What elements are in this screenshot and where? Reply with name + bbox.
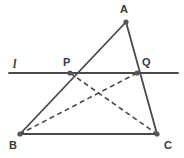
point-c-dot <box>154 131 159 136</box>
point-p-dot <box>67 70 72 75</box>
segment-pc-dashed <box>70 73 157 134</box>
label-line-l: l <box>13 58 16 70</box>
point-a-dot <box>123 19 128 24</box>
label-point-b: B <box>9 140 17 151</box>
point-q-dot <box>134 70 139 75</box>
segment-ab <box>20 22 126 134</box>
point-b-dot <box>17 131 22 136</box>
label-point-p: P <box>63 57 70 68</box>
label-point-c: C <box>164 140 172 151</box>
label-point-q: Q <box>142 57 151 68</box>
geometry-figure: A B C P Q l <box>0 0 184 158</box>
segment-ac <box>126 22 157 134</box>
segment-qb-dashed <box>20 73 137 134</box>
label-point-a: A <box>120 4 128 15</box>
geometry-canvas <box>0 0 184 158</box>
